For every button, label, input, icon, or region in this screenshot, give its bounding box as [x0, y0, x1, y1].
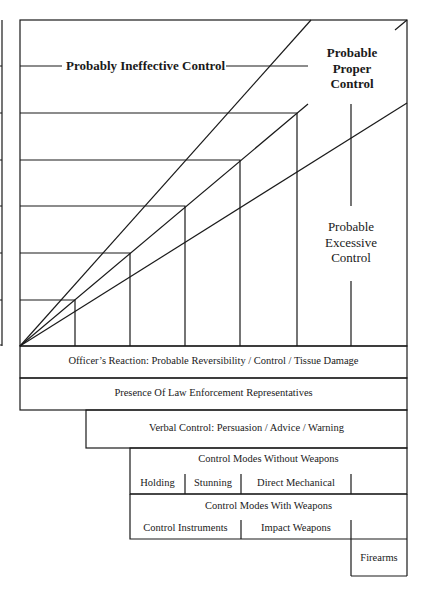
zone-proper-line-3: Control	[320, 76, 384, 92]
zone-probable-excessive-control: Probable Excessive Control	[315, 219, 387, 266]
holding-label: Holding	[130, 477, 185, 488]
zone-excessive-line-2: Excessive	[315, 235, 387, 251]
zone-probable-proper-control: Probable Proper Control	[320, 45, 384, 92]
zone-proper-line-2: Proper	[320, 61, 384, 77]
firearms-label: Firearms	[351, 552, 407, 563]
presence-label: Presence Of Law Enforcement Representati…	[20, 387, 407, 398]
zone-probably-ineffective-control: Probably Ineffective Control	[66, 58, 225, 74]
left-partial-panel	[0, 20, 2, 346]
officers-reaction-label: Officer’s Reaction: Probable Reversibili…	[20, 355, 407, 366]
stunning-label: Stunning	[185, 477, 241, 488]
without-weapons-title: Control Modes Without Weapons	[130, 453, 407, 464]
with-weapons-title: Control Modes With Weapons	[130, 500, 407, 511]
impact-weapons-label: Impact Weapons	[241, 522, 351, 533]
direct-mechanical-label: Direct Mechanical	[241, 477, 351, 488]
zone-proper-line-1: Probable	[320, 45, 384, 61]
control-instruments-label: Control Instruments	[130, 522, 241, 533]
zone-excessive-line-3: Control	[315, 250, 387, 266]
zone-excessive-line-1: Probable	[315, 219, 387, 235]
verbal-control-label: Verbal Control: Persuasion / Advice / Wa…	[86, 422, 407, 433]
